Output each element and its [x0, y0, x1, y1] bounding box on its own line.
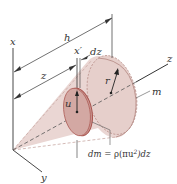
h-arrow-right	[105, 18, 112, 24]
z-distance-label: z	[40, 70, 47, 81]
h-label: h	[64, 32, 70, 43]
m-leader	[136, 91, 150, 98]
dz-label: dz	[90, 46, 102, 57]
x-prime-label: x′	[74, 45, 83, 56]
y-axis-label: y	[40, 172, 47, 183]
z-arrow-right	[69, 65, 76, 71]
h-arrow-left	[14, 66, 21, 72]
y-axis	[13, 150, 42, 172]
z-axis-label: z	[166, 53, 173, 64]
u-label: u	[65, 98, 71, 109]
x-axis-label: x	[10, 36, 16, 47]
base-center	[110, 92, 113, 95]
cone-diagram: x y z h z x′ dz u r m dm = ρ(πu2)dz	[0, 0, 177, 184]
mass-element-equation: dm = ρ(πu2)dz	[88, 148, 151, 159]
mass-label: m	[152, 86, 161, 97]
z-axis-outer	[136, 64, 168, 82]
z-arrow-left	[14, 93, 21, 99]
disk-center	[76, 111, 79, 114]
